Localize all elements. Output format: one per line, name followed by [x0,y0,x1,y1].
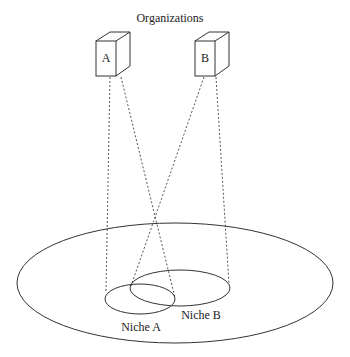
niche-b-label: Niche B [181,308,221,322]
organization-label-a: A [102,51,111,65]
projection-lines [106,77,229,298]
diagram-title: Organizations [136,11,203,25]
niche-b-ellipse [130,270,230,306]
organization-label-b: B [201,51,209,65]
environment-ellipse [17,223,333,343]
niche-diagram: Organizations A B Niche A Niche B [0,0,350,357]
niche-a-label: Niche A [121,320,161,334]
